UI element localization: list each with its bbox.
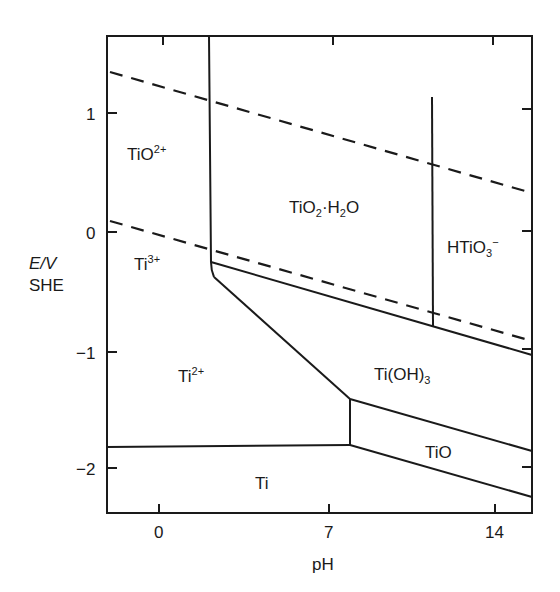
region-label-tio2h2o: TiO2·H2O	[289, 199, 359, 216]
y-tick-label-0: 0	[86, 225, 95, 242]
oxygen-line	[110, 72, 532, 193]
pourbaix-chart	[0, 0, 560, 592]
region-label-ti: Ti	[255, 475, 269, 492]
region-label-tio: TiO	[425, 444, 452, 461]
y-axis-label-line1: E/V	[29, 255, 56, 272]
region-label-tio2plus: TiO2+	[127, 146, 166, 163]
y-tick-label-neg1: −1	[76, 345, 95, 362]
boundary-ti-ti2plus	[107, 445, 350, 447]
x-axis-label: pH	[312, 556, 334, 573]
y-tick-label-1: 1	[86, 106, 95, 123]
boundary-tio2h2o-htio3	[432, 97, 433, 326]
x-tick-label-0: 0	[154, 524, 163, 541]
y-axis-label-line2: SHE	[29, 277, 64, 294]
region-label-ti2plus: Ti2+	[178, 368, 204, 385]
boundary-ti2plus-tioh3	[214, 277, 350, 399]
region-label-tioh3: Ti(OH)3	[374, 366, 430, 383]
axis-ticks	[107, 36, 532, 513]
region-label-ti3plus: Ti3+	[134, 256, 160, 273]
region-label-htio3: HTiO3−	[447, 239, 499, 256]
y-tick-label-neg2: −2	[76, 461, 95, 478]
boundary-ti3plus-tioh3	[211, 262, 532, 355]
x-tick-label-7: 7	[324, 524, 333, 541]
phase-boundaries	[107, 36, 532, 497]
plot-frame	[107, 36, 532, 513]
x-tick-label-14: 14	[485, 524, 504, 541]
boundary-tio2plus-tio2h2o	[209, 36, 214, 277]
